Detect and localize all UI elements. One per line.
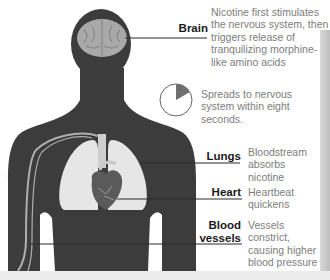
brain-description: Nicotine first stimulates the nervous sy…	[211, 6, 329, 68]
brain-icon	[77, 19, 127, 57]
blood-vessels-label: Blood vessels	[195, 219, 241, 245]
heart-label: Heart	[195, 186, 241, 199]
clock-pie-icon	[160, 84, 192, 116]
blood-vessels-description: Vessels constrict, causing higher blood …	[248, 219, 324, 269]
nervous-system-description: Spreads to nervous system within eight s…	[201, 88, 301, 125]
blood-vessels-label-line1: Blood	[208, 219, 241, 231]
brain-label: Brain	[170, 22, 208, 35]
blood-vessels-label-line2: vessels	[199, 232, 241, 244]
diagram-canvas: Brain Nicotine first stimulates the nerv…	[0, 0, 330, 280]
lungs-description: Bloodstream absorbs nicotine	[248, 146, 316, 183]
heart-description: Heartbeat quickens	[248, 186, 308, 211]
lungs-label: Lungs	[195, 150, 241, 163]
